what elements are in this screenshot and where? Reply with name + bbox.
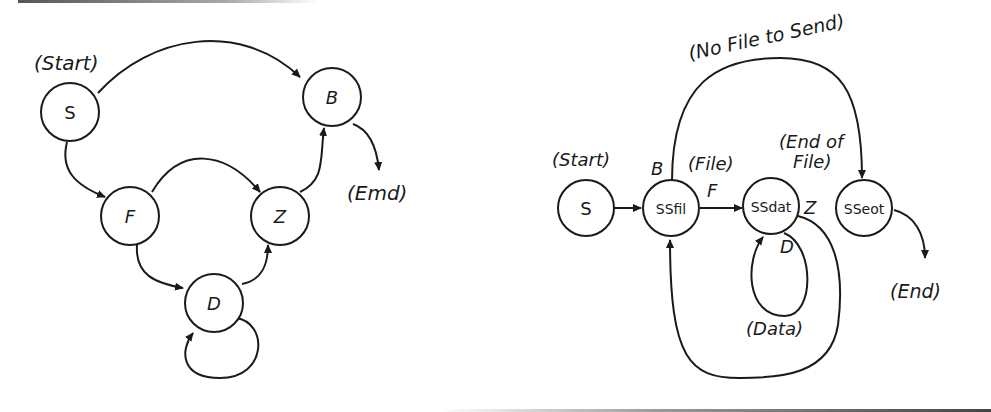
end-of-file-annotation-line1: (End of: [779, 131, 846, 152]
end-of-file-annotation-line2: File): [793, 151, 831, 172]
edge-s-to-b: [98, 41, 300, 93]
left-diagram: S B F Z D (Start) (Emd): [34, 41, 407, 378]
node-ssfil: SSfil: [643, 180, 699, 236]
start-annotation-right: (Start): [552, 149, 610, 170]
node-sseot-label: SSeot: [844, 201, 885, 217]
edge-f-to-z: [152, 159, 260, 192]
node-z: Z: [251, 187, 309, 245]
node-f-label: F: [125, 206, 136, 227]
node-sseot: SSeot: [836, 180, 892, 236]
node-d-label: D: [207, 293, 221, 314]
node-s: S: [41, 83, 99, 141]
node-d: D: [185, 274, 243, 332]
node-ssdat-label: SSdat: [751, 199, 792, 215]
file-annotation: (File): [688, 153, 733, 174]
node-ssdat: SSdat: [743, 178, 799, 234]
edge-sseot-to-end: [894, 210, 925, 258]
edge-z-to-b: [300, 128, 324, 192]
node-s-right: S: [558, 180, 614, 236]
edge-f-to-d: [137, 245, 183, 288]
node-ssfil-label: SSfil: [656, 201, 686, 217]
state-diagrams: S B F Z D (Start) (Emd): [0, 0, 991, 412]
node-b: B: [303, 68, 361, 126]
no-file-annotation: (No File to Send): [686, 9, 846, 64]
edge-label-b: B: [651, 158, 663, 179]
edge-label-f: F: [707, 180, 718, 201]
node-s-label: S: [64, 102, 75, 123]
edge-d-to-z: [242, 245, 268, 284]
right-diagram: S SSfil SSdat SSeot (Start) (No File to …: [552, 9, 941, 378]
data-annotation: (Data): [746, 318, 803, 339]
node-s-right-label: S: [580, 198, 591, 219]
start-annotation: (Start): [34, 51, 98, 75]
edge-label-z: Z: [803, 197, 817, 218]
node-z-label: Z: [273, 206, 287, 227]
edge-label-d: D: [780, 236, 794, 257]
end-annotation-right: (End): [890, 280, 941, 302]
edge-b-to-end: [353, 124, 379, 170]
edge-s-to-f: [65, 142, 105, 197]
node-f: F: [101, 187, 159, 245]
node-b-label: B: [326, 87, 338, 108]
end-annotation: (Emd): [347, 181, 407, 205]
